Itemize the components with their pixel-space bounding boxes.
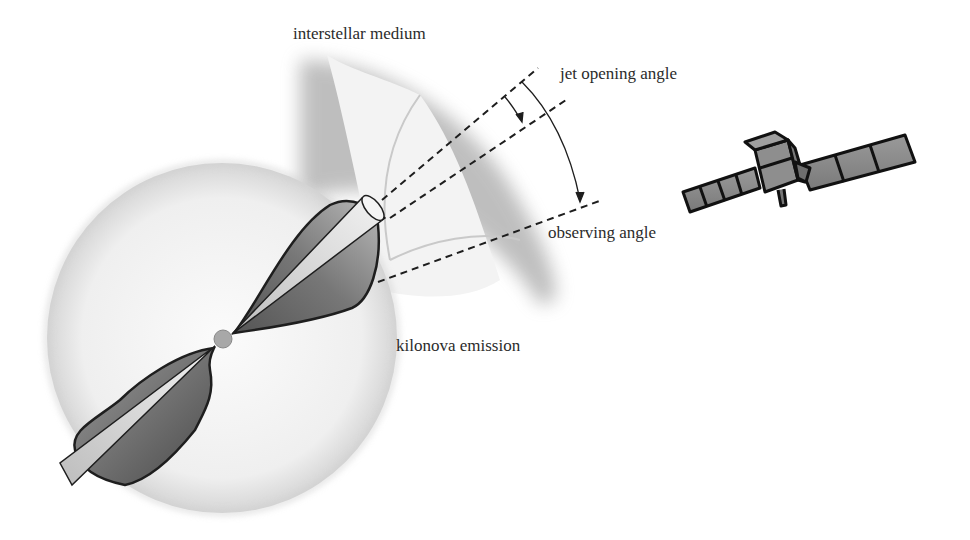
right-solar-panel [800, 135, 915, 190]
satellite [683, 132, 915, 212]
label-jet-opening-angle: jet opening angle [560, 64, 677, 84]
label-kilonova-emission: kilonova emission [396, 336, 520, 356]
jet-opening-angle-arrow [505, 97, 523, 122]
kilonova-diagram [0, 0, 970, 540]
observing-angle-arrow [522, 82, 584, 202]
merger-core [214, 330, 232, 348]
label-observing-angle: observing angle [548, 223, 656, 243]
label-interstellar-medium: interstellar medium [293, 24, 426, 44]
